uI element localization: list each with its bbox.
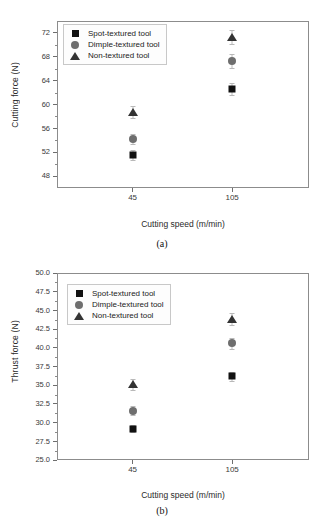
- y-tick-label: 45.0: [35, 307, 53, 315]
- y-tick-mark: [53, 347, 57, 348]
- data-point: [129, 152, 136, 159]
- data-point: [129, 425, 136, 432]
- y-tick-label: 40.0: [35, 344, 53, 352]
- y-tick-label: 52: [42, 148, 53, 156]
- y-tick-mark: [53, 385, 57, 386]
- y-minor-tick-mark: [55, 164, 57, 165]
- x-tick-mark: [132, 460, 133, 464]
- figure-panel-b: Thrust force (N) 25.027.530.032.535.037.…: [0, 262, 324, 524]
- data-point: [128, 108, 138, 116]
- y-tick-mark: [53, 422, 57, 423]
- y-tick-label: 50.0: [35, 269, 53, 277]
- error-bar-cap: [130, 118, 135, 119]
- y-minor-tick-mark: [55, 140, 57, 141]
- x-tick-mark: [232, 188, 233, 192]
- error-bar-cap: [130, 390, 135, 391]
- y-minor-tick-mark: [55, 376, 57, 377]
- data-point: [129, 407, 137, 415]
- error-bar-cap: [130, 106, 135, 107]
- x-axis-label-a: Cutting speed (m/min): [57, 219, 309, 229]
- x-tick-label: 105: [225, 194, 238, 202]
- y-tick-label: 35.0: [35, 381, 53, 389]
- y-tick-mark: [53, 32, 57, 33]
- y-minor-tick-mark: [55, 116, 57, 117]
- y-tick-mark: [53, 366, 57, 367]
- x-tick-mark: [132, 188, 133, 192]
- y-tick-label: 27.5: [35, 438, 53, 446]
- y-tick-mark: [53, 291, 57, 292]
- x-tick-mark: [232, 460, 233, 464]
- y-axis-a: 48525660646872: [0, 0, 57, 262]
- error-bar-cap: [230, 313, 235, 314]
- data-point: [128, 380, 138, 388]
- y-tick-label: 42.5: [35, 325, 53, 333]
- legend-item: Dimple-textured tool: [72, 299, 164, 310]
- y-tick-mark: [53, 310, 57, 311]
- y-tick-mark: [53, 80, 57, 81]
- panel-caption-b: (b): [0, 505, 324, 516]
- data-point: [227, 315, 237, 323]
- legend-item: Spot-textured tool: [72, 288, 164, 299]
- circle-marker-icon: [228, 339, 236, 347]
- panel-caption-a: (a): [0, 238, 324, 249]
- circle-marker-icon: [71, 41, 79, 49]
- legend-marker: [72, 301, 86, 309]
- square-marker-icon: [72, 30, 79, 37]
- triangle-marker-icon: [227, 315, 237, 323]
- legend-item: Non-textured tool: [68, 50, 160, 61]
- error-bar-cap: [130, 144, 135, 145]
- y-minor-tick-mark: [55, 45, 57, 46]
- legend-item: Spot-textured tool: [68, 28, 160, 39]
- legend-label: Dimple-textured tool: [92, 301, 164, 309]
- triangle-marker-icon: [70, 52, 80, 60]
- legend-marker: [72, 290, 86, 297]
- y-tick-label: 60: [42, 101, 53, 109]
- square-marker-icon: [76, 290, 83, 297]
- x-axis-label-b: Cutting speed (m/min): [57, 490, 309, 500]
- error-bar-cap: [230, 83, 235, 84]
- error-bar-cap: [130, 432, 135, 433]
- error-bar-cap: [230, 95, 235, 96]
- error-bar-cap: [130, 160, 135, 161]
- y-tick-label: 56: [42, 125, 53, 133]
- error-bar-cap: [230, 30, 235, 31]
- circle-marker-icon: [129, 135, 137, 143]
- x-tick-label: 105: [225, 466, 238, 474]
- data-point: [229, 373, 236, 380]
- triangle-marker-icon: [74, 312, 84, 320]
- y-tick-label: 30.0: [35, 419, 53, 427]
- error-bar-cap: [230, 68, 235, 69]
- y-tick-mark: [53, 403, 57, 404]
- circle-marker-icon: [75, 301, 83, 309]
- y-tick-label: 68: [42, 53, 53, 61]
- square-marker-icon: [229, 373, 236, 380]
- y-minor-tick-mark: [55, 282, 57, 283]
- triangle-marker-icon: [128, 108, 138, 116]
- triangle-marker-icon: [227, 33, 237, 41]
- x-tick-label: 45: [128, 194, 137, 202]
- legend-a: Spot-textured toolDimple-textured toolNo…: [63, 24, 167, 65]
- y-tick-label: 47.5: [35, 288, 53, 296]
- square-marker-icon: [229, 85, 236, 92]
- data-point: [227, 33, 237, 41]
- y-tick-label: 48: [42, 172, 53, 180]
- error-bar-cap: [230, 381, 235, 382]
- legend-label: Non-textured tool: [88, 52, 149, 60]
- circle-marker-icon: [129, 407, 137, 415]
- y-minor-tick-mark: [55, 395, 57, 396]
- data-point: [229, 85, 236, 92]
- legend-label: Spot-textured tool: [92, 290, 155, 298]
- legend-label: Spot-textured tool: [88, 30, 151, 38]
- y-axis-b: 25.027.530.032.535.037.540.042.545.047.5…: [0, 262, 57, 524]
- y-minor-tick-mark: [55, 69, 57, 70]
- legend-label: Non-textured tool: [92, 312, 153, 320]
- y-tick-label: 72: [42, 29, 53, 37]
- error-bar-cap: [130, 415, 135, 416]
- square-marker-icon: [129, 152, 136, 159]
- error-bar-cap: [230, 44, 235, 45]
- y-tick-label: 37.5: [35, 363, 53, 371]
- y-tick-mark: [53, 460, 57, 461]
- y-tick-mark: [53, 273, 57, 274]
- legend-item: Dimple-textured tool: [68, 39, 160, 50]
- y-tick-label: 32.5: [35, 400, 53, 408]
